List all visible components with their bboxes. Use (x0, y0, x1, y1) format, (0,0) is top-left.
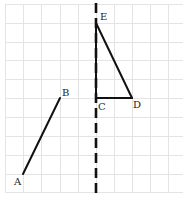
label-a: A (13, 176, 22, 187)
label-c: C (98, 101, 106, 112)
label-b: B (62, 87, 69, 98)
label-d: D (133, 99, 141, 110)
grid-diagram: A B C D E (0, 0, 183, 203)
grid-lines (5, 4, 183, 193)
label-e: E (100, 11, 107, 22)
